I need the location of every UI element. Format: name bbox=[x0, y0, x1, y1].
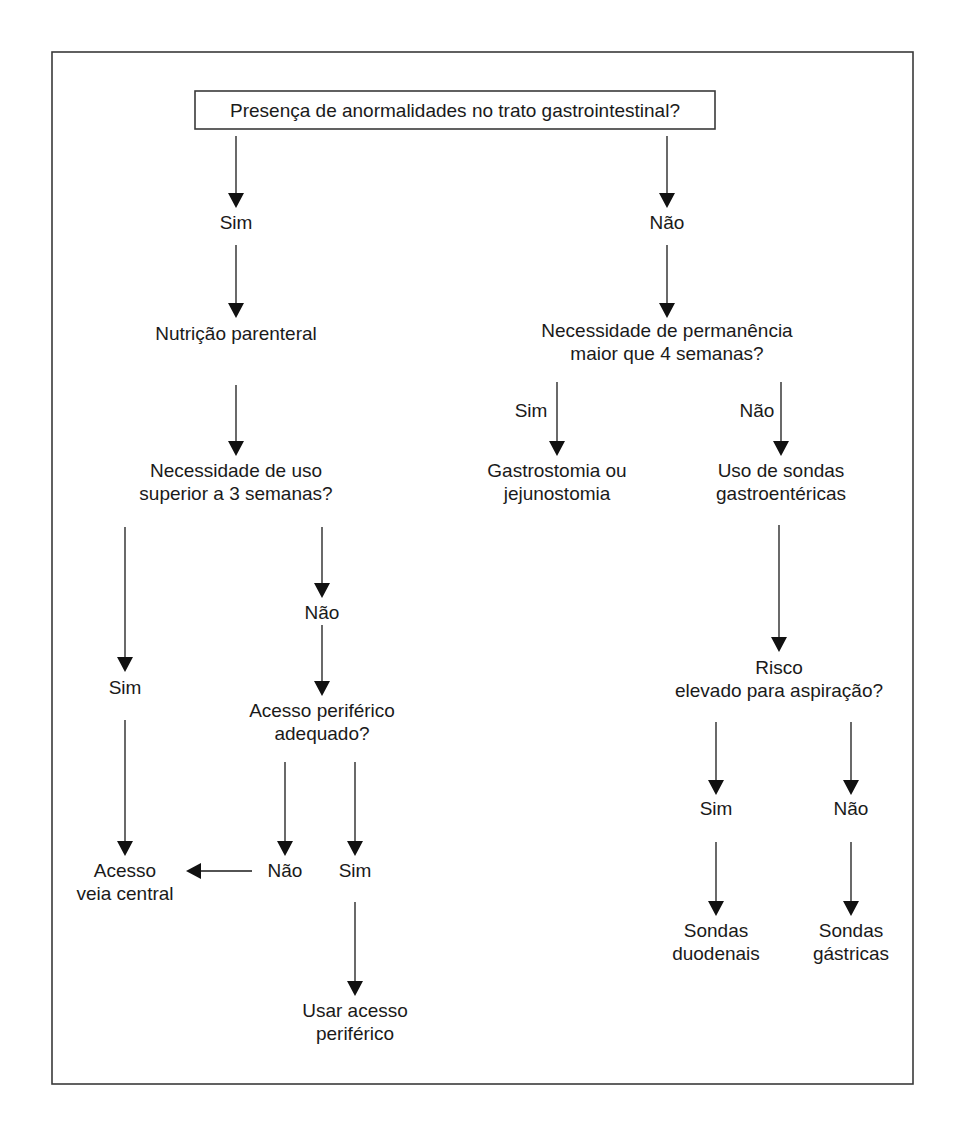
node-line: gástricas bbox=[813, 943, 889, 964]
arrowhead-icon bbox=[228, 441, 244, 456]
node-line: Não bbox=[305, 602, 340, 623]
arrow-q-4sem-to-sondas-ge bbox=[773, 382, 789, 456]
node-sim-4sem: Sim bbox=[515, 400, 548, 421]
arrow-sim-aspiracao-to-duodenais bbox=[708, 842, 724, 916]
arrow-q-periferico-to-nao-periferico bbox=[277, 762, 293, 856]
node-line: Risco bbox=[755, 657, 803, 678]
arrow-q-aspiracao-to-nao-aspiracao bbox=[843, 722, 859, 795]
node-line: Sim bbox=[515, 400, 548, 421]
arrow-q-3sem-to-nao-3sem bbox=[314, 527, 330, 598]
node-line: elevado para aspiração? bbox=[675, 680, 883, 701]
node-nao-4sem: Não bbox=[740, 400, 775, 421]
node-q-4sem: Necessidade de permanênciamaior que 4 se… bbox=[541, 320, 793, 364]
node-q-periferico: Acesso periféricoadequado? bbox=[249, 700, 395, 744]
node-sim-3sem: Sim bbox=[109, 677, 142, 698]
node-nao-gi: Não bbox=[650, 212, 685, 233]
node-nao-periferico: Não bbox=[268, 860, 303, 881]
node-gastricas: Sondasgástricas bbox=[813, 920, 889, 964]
arrowhead-icon bbox=[549, 441, 565, 456]
node-line: jejunostomia bbox=[503, 483, 611, 504]
node-line: adequado? bbox=[274, 723, 369, 744]
node-line: duodenais bbox=[672, 943, 760, 964]
arrowhead-icon bbox=[314, 583, 330, 598]
node-q-aspiracao: Riscoelevado para aspiração? bbox=[675, 657, 883, 701]
node-line: gastroentéricas bbox=[716, 483, 846, 504]
diagram-frame bbox=[52, 52, 913, 1084]
node-line: Não bbox=[834, 798, 869, 819]
arrowhead-icon bbox=[659, 303, 675, 318]
arrowhead-icon bbox=[228, 303, 244, 318]
node-line: Sim bbox=[109, 677, 142, 698]
node-usar-periferico: Usar acessoperiférico bbox=[302, 1000, 408, 1044]
node-line: Acesso periférico bbox=[249, 700, 395, 721]
arrow-q-periferico-to-sim-periferico bbox=[347, 762, 363, 856]
node-nao-3sem: Não bbox=[305, 602, 340, 623]
arrowhead-icon bbox=[186, 863, 201, 879]
arrow-q-gi-to-nao-gi bbox=[659, 136, 675, 208]
node-line: Não bbox=[740, 400, 775, 421]
arrowhead-icon bbox=[117, 841, 133, 856]
arrowhead-icon bbox=[228, 193, 244, 208]
node-sim-aspiracao: Sim bbox=[700, 798, 733, 819]
node-line: Sim bbox=[220, 212, 253, 233]
node-line: Sim bbox=[339, 860, 372, 881]
node-line: Necessidade de uso bbox=[150, 460, 322, 481]
arrow-sondas-ge-to-q-aspiracao bbox=[771, 525, 787, 652]
node-q-3sem: Necessidade de usosuperior a 3 semanas? bbox=[139, 460, 332, 504]
edges-layer bbox=[117, 136, 859, 996]
flowchart-canvas: Presença de anormalidades no trato gastr… bbox=[0, 0, 960, 1142]
arrowhead-icon bbox=[771, 637, 787, 652]
arrowhead-icon bbox=[708, 780, 724, 795]
node-line: Gastrostomia ou bbox=[487, 460, 626, 481]
arrow-q-gi-to-sim-gi bbox=[228, 136, 244, 208]
node-line: Nutrição parenteral bbox=[155, 323, 317, 344]
node-duodenais: Sondasduodenais bbox=[672, 920, 760, 964]
node-np: Nutrição parenteral bbox=[155, 323, 317, 344]
arrow-sim-3sem-to-veia-central bbox=[117, 720, 133, 856]
node-line: veia central bbox=[76, 883, 173, 904]
node-line: Uso de sondas bbox=[718, 460, 845, 481]
arrowhead-icon bbox=[277, 841, 293, 856]
arrowhead-icon bbox=[843, 901, 859, 916]
root-question-text: Presença de anormalidades no trato gastr… bbox=[230, 100, 680, 121]
node-line: Não bbox=[268, 860, 303, 881]
arrowhead-icon bbox=[843, 780, 859, 795]
node-sondas-ge: Uso de sondasgastroentéricas bbox=[716, 460, 846, 504]
arrowhead-icon bbox=[659, 193, 675, 208]
arrowhead-icon bbox=[773, 441, 789, 456]
arrowhead-icon bbox=[314, 681, 330, 696]
labels-layer: SimNãoNutrição parenteralNecessidade de … bbox=[76, 212, 889, 1044]
arrowhead-icon bbox=[347, 981, 363, 996]
arrowhead-icon bbox=[708, 901, 724, 916]
arrow-q-3sem-to-sim-3sem bbox=[117, 527, 133, 672]
node-line: maior que 4 semanas? bbox=[570, 343, 763, 364]
node-line: Necessidade de permanência bbox=[541, 320, 793, 341]
node-sim-periferico: Sim bbox=[339, 860, 372, 881]
node-sim-gi: Sim bbox=[220, 212, 253, 233]
node-line: Sondas bbox=[684, 920, 748, 941]
node-line: Sondas bbox=[819, 920, 883, 941]
arrow-nao-periferico-to-veia-central bbox=[186, 863, 252, 879]
arrow-q-4sem-to-gastrostomia bbox=[549, 382, 565, 456]
arrow-sim-gi-to-np bbox=[228, 245, 244, 318]
arrow-q-aspiracao-to-sim-aspiracao bbox=[708, 722, 724, 795]
node-line: Acesso bbox=[94, 860, 156, 881]
node-gastrostomia: Gastrostomia oujejunostomia bbox=[487, 460, 626, 504]
arrowhead-icon bbox=[347, 841, 363, 856]
arrow-np-to-q-3sem bbox=[228, 385, 244, 456]
node-line: Sim bbox=[700, 798, 733, 819]
node-line: superior a 3 semanas? bbox=[139, 483, 332, 504]
arrowhead-icon bbox=[117, 657, 133, 672]
node-line: Não bbox=[650, 212, 685, 233]
arrow-nao-3sem-to-q-periferico bbox=[314, 625, 330, 696]
node-nao-aspiracao: Não bbox=[834, 798, 869, 819]
node-veia-central: Acessoveia central bbox=[76, 860, 173, 904]
arrow-nao-gi-to-q-4sem bbox=[659, 245, 675, 318]
node-line: periférico bbox=[316, 1023, 394, 1044]
node-line: Usar acesso bbox=[302, 1000, 408, 1021]
arrow-nao-aspiracao-to-gastricas bbox=[843, 842, 859, 916]
arrow-sim-periferico-to-usar-periferico bbox=[347, 902, 363, 996]
